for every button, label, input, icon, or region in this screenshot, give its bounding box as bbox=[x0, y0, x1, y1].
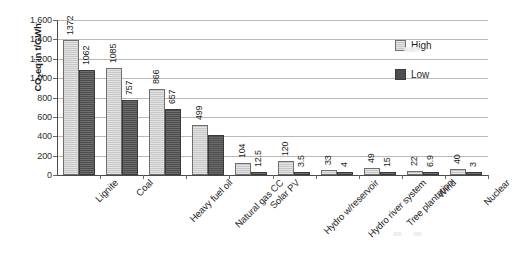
y-axis-tick-label: 200 bbox=[16, 151, 52, 161]
y-axis-tick-label: 0 bbox=[16, 170, 52, 180]
bar-low: 4 bbox=[337, 172, 353, 176]
legend: High Low bbox=[395, 38, 465, 96]
bar-high: 33 bbox=[321, 170, 337, 175]
y-axis-tick-label: 1,200 bbox=[16, 54, 52, 64]
x-axis-category-label: Wind bbox=[436, 177, 459, 200]
bar-group: 1203.5 bbox=[273, 20, 316, 175]
y-axis-tick-label: 800 bbox=[16, 93, 52, 103]
bar-high: 866 bbox=[149, 89, 165, 175]
bar-value-label: 1372 bbox=[66, 16, 75, 35]
bar-value-label: 40 bbox=[453, 155, 462, 165]
bar-value-label: 4 bbox=[340, 162, 349, 167]
bar-high: 104 bbox=[235, 163, 251, 175]
bar-high: 499 bbox=[192, 125, 208, 175]
bar-value-label: 1062 bbox=[82, 46, 91, 65]
legend-swatch-low bbox=[395, 69, 406, 80]
bar-low: 3 bbox=[466, 172, 482, 176]
bar-value-label: 15 bbox=[383, 157, 392, 167]
x-axis-category-label: Heavy fuel oil bbox=[187, 177, 234, 224]
bar-low: 6.9 bbox=[423, 172, 439, 176]
x-axis-category-label: Nuclear bbox=[482, 177, 512, 207]
bar-value-label: 3.5 bbox=[297, 155, 306, 167]
bar-high: 1085 bbox=[106, 68, 122, 175]
bar-high: 49 bbox=[364, 168, 380, 175]
bar-low: 3.5 bbox=[294, 172, 310, 176]
bar-low: 12.5 bbox=[251, 172, 267, 176]
bar-value-label: 1085 bbox=[109, 44, 118, 63]
legend-item-low: Low bbox=[395, 67, 465, 82]
bar-value-label: 657 bbox=[168, 90, 177, 104]
bar-value-label: 499 bbox=[195, 105, 204, 119]
bar-value-label: 3 bbox=[469, 162, 478, 167]
bar-group: 1085757 bbox=[100, 20, 143, 175]
bar-value-label: 12.5 bbox=[254, 150, 263, 167]
y-axis-tick-labels: 1,6001,4001,2001,0008006004002000 bbox=[14, 0, 52, 261]
bar-group: 866657 bbox=[143, 20, 186, 175]
legend-item-high: High bbox=[395, 38, 465, 53]
bar-value-label: 866 bbox=[152, 70, 161, 84]
bar-high: 120 bbox=[278, 161, 294, 175]
legend-label-high: High bbox=[411, 40, 432, 51]
bar-value-label: 6.9 bbox=[426, 155, 435, 167]
bar-low: 757 bbox=[122, 100, 138, 175]
bar-low bbox=[208, 135, 224, 175]
bar-value-label: 33 bbox=[324, 155, 333, 165]
plot-area: 13721062108575786665749910412.51203.5334… bbox=[57, 20, 488, 175]
bar-low: 657 bbox=[165, 109, 181, 175]
bar-low: 15 bbox=[380, 172, 396, 176]
x-axis-tick bbox=[488, 175, 489, 179]
x-axis-category-label: Coal bbox=[133, 177, 154, 198]
bar-high: 22 bbox=[407, 171, 423, 175]
legend-label-low: Low bbox=[411, 69, 429, 80]
y-axis-tick-label: 600 bbox=[16, 112, 52, 122]
bar-group: 334 bbox=[316, 20, 359, 175]
y-axis-tick-label: 1,400 bbox=[16, 34, 52, 44]
bar-value-label: 49 bbox=[367, 154, 376, 164]
y-axis-tick-label: 400 bbox=[16, 131, 52, 141]
y-axis-tick-label: 1,600 bbox=[16, 15, 52, 25]
y-axis-tick-label: 1,000 bbox=[16, 73, 52, 83]
bar-group: 499 bbox=[186, 20, 229, 175]
bar-low: 1062 bbox=[79, 70, 95, 175]
bar-high: 1372 bbox=[63, 40, 79, 175]
bar-value-label: 757 bbox=[125, 80, 134, 94]
bar-value-label: 22 bbox=[410, 156, 419, 166]
bar-group: 10412.5 bbox=[229, 20, 272, 175]
y-axis-tick bbox=[53, 175, 57, 176]
bar-group: 13721062 bbox=[57, 20, 100, 175]
bar-value-label: 120 bbox=[281, 142, 290, 156]
x-axis-category-labels: LigniteCoalHeavy fuel oilNatural gas CCS… bbox=[57, 177, 488, 261]
legend-swatch-high bbox=[395, 40, 406, 51]
bar-value-label: 104 bbox=[238, 144, 247, 158]
bar-high: 40 bbox=[450, 169, 466, 175]
x-axis-category-label: Lignite bbox=[93, 177, 120, 204]
